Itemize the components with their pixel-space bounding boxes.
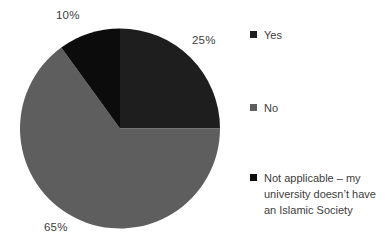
legend-item-yes: Yes — [250, 27, 282, 43]
pie-label-yes-pct: 25% — [192, 34, 216, 46]
legend-item-no: No — [250, 100, 278, 116]
pie-chart-figure: 10% 25% 65% Yes No Not applicable – my u… — [0, 0, 385, 250]
legend-label-yes: Yes — [264, 27, 282, 43]
legend-label-not-applicable: Not applicable – my university doesn’t h… — [264, 170, 376, 218]
legend-swatch-yes-icon — [250, 31, 257, 38]
legend-label-no: No — [264, 100, 278, 116]
legend-swatch-no-icon — [250, 104, 257, 111]
legend-swatch-not-applicable-icon — [250, 174, 257, 181]
pie-label-no-pct: 65% — [44, 221, 68, 233]
legend-item-not-applicable: Not applicable – my university doesn’t h… — [250, 170, 376, 218]
pie-label-not-applicable-pct: 10% — [56, 9, 80, 21]
